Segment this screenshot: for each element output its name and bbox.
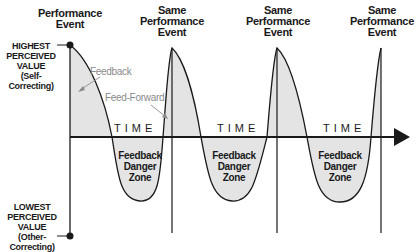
feedback-annotation: Feedback xyxy=(90,66,132,77)
lowest-line-1: LOWEST xyxy=(0,202,64,212)
event-label-3: Same Performance Event xyxy=(238,5,318,38)
highest-line-3: VALUE xyxy=(0,61,62,71)
lowest-value-dot xyxy=(67,233,74,240)
time-label-3: TIME xyxy=(323,122,365,134)
time-arrow-icon xyxy=(394,128,410,146)
danger-zone-label-2: Feedback Danger Zone xyxy=(209,150,259,183)
event-label-1: Performance Event xyxy=(30,8,110,30)
highest-line-4: (Self-Correcting) xyxy=(0,71,62,91)
zone-2-line-2: Danger xyxy=(209,161,259,172)
event-4-line-3: Event xyxy=(342,27,419,38)
highest-line-2: PERCEIVED xyxy=(0,51,62,61)
zone-3-line-2: Danger xyxy=(315,161,365,172)
event-1-line-2: Event xyxy=(30,19,110,30)
highest-value-dot xyxy=(67,42,74,49)
feed-forward-annotation: Feed-Forward xyxy=(105,92,164,103)
event-label-2: Same Performance Event xyxy=(132,5,212,38)
event-3-line-3: Event xyxy=(238,27,318,38)
lowest-line-4: (Other-Correcting) xyxy=(0,232,64,252)
zone-2-line-1: Feedback xyxy=(209,150,259,161)
zone-3-line-3: Zone xyxy=(315,172,365,183)
time-label-2: TIME xyxy=(217,122,259,134)
zone-2-line-3: Zone xyxy=(209,172,259,183)
zone-1-line-2: Danger xyxy=(115,161,165,172)
zone-3-line-1: Feedback xyxy=(315,150,365,161)
time-label-1: TIME xyxy=(114,122,156,134)
zone-1-line-1: Feedback xyxy=(115,150,165,161)
lowest-value-label: LOWEST PERCEIVED VALUE (Other-Correcting… xyxy=(0,202,64,252)
zone-1-line-3: Zone xyxy=(115,172,165,183)
lowest-line-3: VALUE xyxy=(0,222,64,232)
event-2-line-3: Event xyxy=(132,27,212,38)
danger-zone-label-1: Feedback Danger Zone xyxy=(115,150,165,183)
lowest-line-2: PERCEIVED xyxy=(0,212,64,222)
event-label-4: Same Performance Event xyxy=(342,5,419,38)
highest-value-label: HIGHEST PERCEIVED VALUE (Self-Correcting… xyxy=(0,41,62,91)
highest-line-1: HIGHEST xyxy=(0,41,62,51)
danger-zone-label-3: Feedback Danger Zone xyxy=(315,150,365,183)
